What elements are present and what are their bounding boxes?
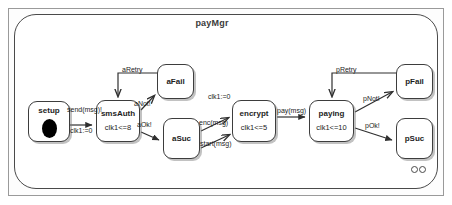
state-afail-label: aFail xyxy=(166,77,184,87)
state-encrypt-label: encrypt xyxy=(240,109,269,119)
state-smsauth-label: smsAuth xyxy=(101,109,135,119)
transition-label-pok: pOk! xyxy=(365,122,380,131)
transition-label-clk1-reset-setup: clk1:=0 xyxy=(70,127,92,136)
initial-state-blob-icon xyxy=(42,119,57,138)
transition-label-enc-msg: enc(msg) xyxy=(199,119,228,128)
state-setup[interactable]: setup xyxy=(28,101,70,142)
state-asuc-label: aSuc xyxy=(172,134,191,144)
state-pfail[interactable]: pFail xyxy=(396,64,433,99)
transition-label-aok: aOk! xyxy=(137,121,152,130)
marker-ring-left xyxy=(411,166,418,173)
state-paying[interactable]: paying clk1<=10 xyxy=(309,100,354,142)
state-setup-label: setup xyxy=(38,106,59,116)
transition-label-clk1-reset-encrypt: clk1:=0 xyxy=(208,93,230,102)
transition-label-pnot: pNot! xyxy=(363,95,380,104)
transition-label-anot: aNot! xyxy=(134,100,151,109)
state-smsauth-invariant: clk1<=8 xyxy=(105,123,131,133)
state-pfail-label: pFail xyxy=(405,77,424,87)
double-circle-marker-icon xyxy=(411,166,426,173)
diagram-title: payMgr xyxy=(0,18,424,28)
state-paying-label: paying xyxy=(319,109,345,119)
transition-label-start-msg: start(msg) xyxy=(200,140,232,149)
state-psuc-label: pSuc xyxy=(405,134,425,144)
transition-label-pretry: pRetry xyxy=(336,66,357,75)
state-paying-invariant: clk1<=10 xyxy=(316,123,346,133)
state-encrypt-invariant: clk1<=5 xyxy=(241,123,267,133)
transition-label-pay-msg: pay(msg) xyxy=(277,107,306,116)
marker-ring-right xyxy=(419,166,426,173)
diagram-canvas: payMgr setup xyxy=(0,0,452,205)
state-encrypt[interactable]: encrypt clk1<=5 xyxy=(232,100,276,142)
state-afail[interactable]: aFail xyxy=(157,64,194,99)
transition-label-aretry: aRetry xyxy=(122,66,143,75)
state-psuc[interactable]: pSuc xyxy=(396,118,433,159)
transition-label-send-msg: send(msg)! xyxy=(67,106,102,115)
state-asuc[interactable]: aSuc xyxy=(163,118,200,159)
